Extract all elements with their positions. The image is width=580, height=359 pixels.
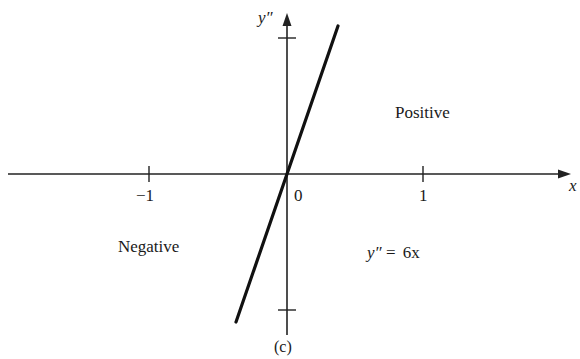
y-axis-label: y″ <box>258 8 273 28</box>
x-tick-label-neg1: −1 <box>136 186 154 206</box>
equation-lhs: y″ <box>367 243 382 262</box>
negative-region-label: Negative <box>118 237 179 257</box>
diagram-canvas <box>0 0 580 359</box>
equation-eq: = <box>386 243 396 262</box>
positive-region-label: Positive <box>395 103 450 123</box>
origin-label: 0 <box>294 186 303 206</box>
figure-caption: (c) <box>274 338 292 356</box>
equation-rhs: 6x <box>403 243 420 262</box>
x-axis-label: x <box>569 176 577 196</box>
x-tick-label-1: 1 <box>419 186 428 206</box>
equation-label: y″ = 6x <box>367 243 420 263</box>
y-axis-arrow-icon <box>283 13 292 26</box>
